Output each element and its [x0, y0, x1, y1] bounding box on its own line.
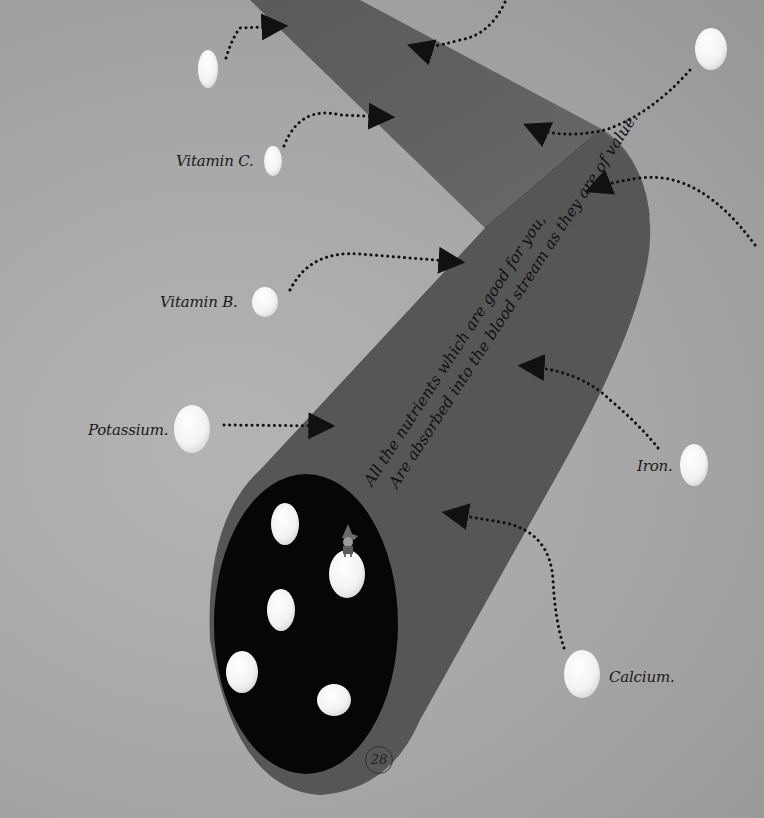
tube-opening: [214, 474, 398, 774]
arrow-potassium: [224, 425, 330, 426]
label-vitamin-c: Vitamin C.: [176, 152, 254, 170]
label-iron: Iron.: [637, 457, 673, 475]
tube-diagram: All the nutrients which are good for you…: [0, 0, 764, 818]
arrow-top-left: [226, 26, 283, 58]
label-potassium: Potassium.: [88, 421, 168, 439]
label-vitamin-b: Vitamin B.: [160, 293, 238, 311]
illustration-page: All the nutrients which are good for you…: [0, 0, 764, 818]
page-number: 28: [365, 746, 393, 774]
label-calcium: Calcium.: [609, 668, 674, 686]
